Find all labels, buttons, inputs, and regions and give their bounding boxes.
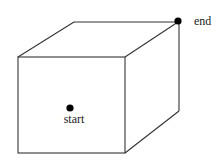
end-label: end xyxy=(194,14,211,28)
start-point-marker xyxy=(66,104,73,111)
cube-edge-top-right xyxy=(125,22,178,57)
end-point-marker xyxy=(174,17,181,24)
cube-edge-bottom-right xyxy=(125,111,179,153)
cube-edge-top-left xyxy=(18,22,74,57)
start-label: start xyxy=(64,112,85,126)
cube-diagram: start end xyxy=(0,0,222,161)
